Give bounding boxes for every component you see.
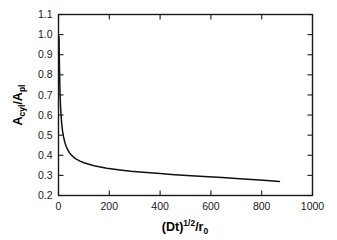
x-axis-title-slash: /r: [195, 220, 203, 234]
y-axis-title-subscript-2: pl: [17, 85, 27, 93]
line-chart: 02004006008001000 0.20.30.40.50.60.70.80…: [0, 0, 337, 240]
x-tick-label: 200: [101, 200, 119, 212]
y-tick-label: 0.5: [38, 129, 53, 141]
y-tick-label: 0.3: [38, 169, 53, 181]
y-tick-label: 0.4: [38, 149, 53, 161]
chart-figure: 02004006008001000 0.20.30.40.50.60.70.80…: [0, 0, 337, 240]
y-tick-label: 0.7: [38, 89, 53, 101]
y-axis-title-subscript-1: cyl: [17, 105, 27, 117]
x-axis-title-main: (Dt): [162, 220, 184, 234]
x-axis-title-superscript: 1/2: [183, 218, 195, 228]
y-tick-label: 0.9: [38, 48, 53, 60]
x-tick-label: 400: [151, 200, 169, 212]
y-tick-label: 0.8: [38, 68, 53, 80]
x-tick-label: 800: [253, 200, 271, 212]
y-axis-title-slash: /A: [11, 92, 25, 105]
y-tick-label: 0.6: [38, 109, 53, 121]
x-tick-label: 600: [202, 200, 220, 212]
y-tick-label: 1.0: [38, 28, 53, 40]
x-axis-title-subscript: 0: [203, 226, 208, 236]
y-tick-label: 0.2: [38, 189, 53, 201]
y-axis-title-main: A: [11, 116, 25, 125]
x-tick-label: 0: [56, 200, 62, 212]
x-tick-label: 1000: [301, 200, 325, 212]
y-tick-label: 1.1: [38, 8, 53, 20]
